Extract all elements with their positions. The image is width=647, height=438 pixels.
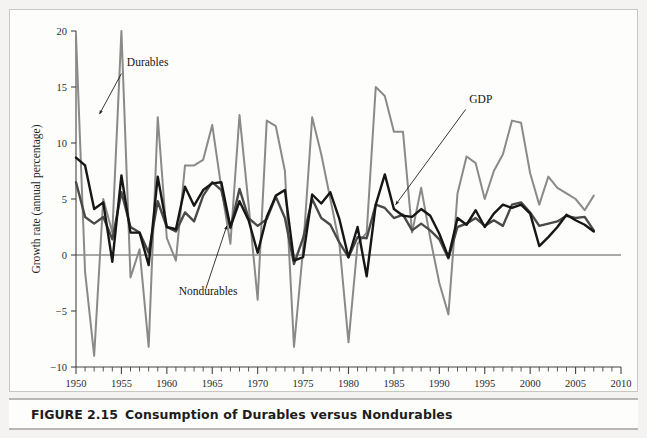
y-axis-tick-label: −5 <box>56 306 67 317</box>
annotation-label-gdp: GDP <box>469 93 492 105</box>
x-axis-tick-label: 1955 <box>111 378 132 389</box>
annotation-label-durables: Durables <box>127 56 169 68</box>
x-axis-tick-label: 2005 <box>565 378 586 389</box>
figure-frame: −10−505101520195019551960196519701975198… <box>9 9 638 392</box>
figure-number: FIGURE 2.15 <box>31 407 118 422</box>
y-axis-tick-label: 15 <box>57 82 68 93</box>
figure-caption-title: Consumption of Durables versus Nondurabl… <box>125 407 453 422</box>
annotation-arrow-nondurables <box>206 226 227 289</box>
y-axis-tick-label: 10 <box>57 138 68 149</box>
series-line-durables <box>76 31 594 356</box>
x-axis-tick-label: 1965 <box>202 378 223 389</box>
y-axis-tick-label: −10 <box>51 362 67 373</box>
y-axis-tick-label: 20 <box>57 26 68 37</box>
y-axis-tick-label: 0 <box>62 250 67 261</box>
x-axis-tick-label: 1985 <box>383 378 404 389</box>
y-axis-title: Growth rate (annual percentage) <box>30 124 43 273</box>
x-axis-tick-label: 1990 <box>429 378 450 389</box>
x-axis-tick-label: 1950 <box>66 378 87 389</box>
x-axis-tick-label: 2000 <box>520 378 541 389</box>
x-axis-tick-label: 1980 <box>338 378 359 389</box>
y-axis-tick-label: 5 <box>62 194 67 205</box>
x-axis-tick-label: 1970 <box>247 378 268 389</box>
x-axis-tick-label: 1975 <box>293 378 314 389</box>
figure-page: −10−505101520195019551960196519701975198… <box>0 0 647 438</box>
x-axis-tick-label: 1960 <box>156 378 177 389</box>
x-axis-tick-label: 2010 <box>611 378 632 389</box>
plot-area: −10−505101520195019551960196519701975198… <box>10 10 639 393</box>
line-chart: −10−505101520195019551960196519701975198… <box>10 10 639 393</box>
annotation-label-nondurables: Nondurables <box>179 285 238 297</box>
figure-caption-bar: FIGURE 2.15 Consumption of Durables vers… <box>9 398 638 430</box>
x-axis-tick-label: 1995 <box>474 378 495 389</box>
